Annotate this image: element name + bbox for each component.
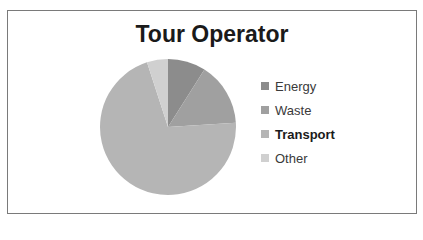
- legend-item-other: Other: [261, 146, 335, 170]
- legend-swatch-waste: [261, 106, 269, 114]
- legend-item-transport: Transport: [261, 122, 335, 146]
- chart-title: Tour Operator: [8, 21, 416, 48]
- legend-swatch-other: [261, 154, 269, 162]
- legend-swatch-transport: [261, 130, 269, 138]
- legend-swatch-energy: [261, 82, 269, 90]
- legend: Energy Waste Transport Other: [261, 74, 335, 170]
- legend-item-waste: Waste: [261, 98, 335, 122]
- legend-item-energy: Energy: [261, 74, 335, 98]
- pie-chart: [93, 52, 243, 202]
